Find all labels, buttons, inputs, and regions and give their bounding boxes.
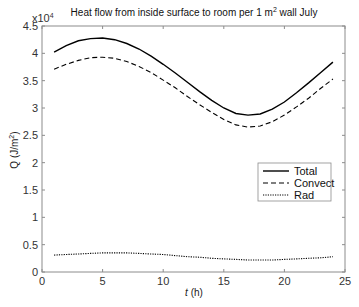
legend-label-rad: Rad bbox=[294, 189, 314, 201]
y-tick-label: 2.5 bbox=[23, 129, 38, 141]
y-tick-label: 1 bbox=[32, 211, 38, 223]
y-tick-label: 3.5 bbox=[23, 75, 38, 87]
y-tick-label: 4 bbox=[32, 47, 38, 59]
x-tick-label: 5 bbox=[100, 275, 106, 287]
plot-area bbox=[42, 26, 345, 272]
y-multiplier: x104 bbox=[32, 12, 54, 24]
x-tick-label: 15 bbox=[218, 275, 230, 287]
line-chart: 0510152025 00.511.522.533.544.5 x104 Hea… bbox=[0, 0, 359, 307]
y-axis-label: Q (J/m2) bbox=[8, 131, 20, 168]
y-tick-label: 2 bbox=[32, 157, 38, 169]
legend-label-convect: Convect bbox=[294, 177, 334, 189]
x-axis-label: t (h) bbox=[185, 287, 203, 298]
legend: TotalConvectRad bbox=[258, 163, 334, 201]
y-tick-label: 0 bbox=[32, 266, 38, 278]
chart-title: Heat flow from inside surface to room pe… bbox=[71, 6, 318, 18]
y-tick-label: 1.5 bbox=[23, 184, 38, 196]
x-tick-label: 20 bbox=[278, 275, 290, 287]
x-tick-label: 25 bbox=[339, 275, 351, 287]
x-tick-label: 0 bbox=[39, 275, 45, 287]
y-tick-label: 0.5 bbox=[23, 239, 38, 251]
legend-label-total: Total bbox=[294, 165, 317, 177]
x-tick-label: 10 bbox=[157, 275, 169, 287]
y-tick-label: 3 bbox=[32, 102, 38, 114]
